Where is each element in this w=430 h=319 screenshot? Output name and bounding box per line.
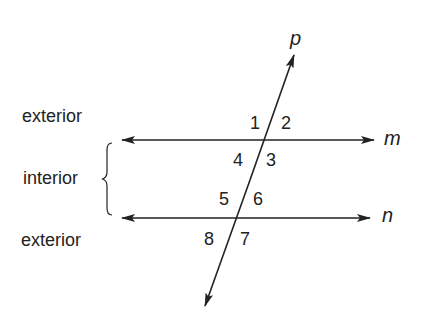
label-exterior-top: exterior [22,107,82,125]
angle-5: 5 [219,190,229,208]
angle-7: 7 [240,230,250,248]
angle-8: 8 [204,230,214,248]
angle-2: 2 [281,114,291,132]
label-interior: interior [23,169,78,187]
label-line-m: m [384,128,401,148]
diagram-canvas [0,0,430,319]
interior-brace [102,143,112,215]
angle-4: 4 [233,151,243,169]
angle-3: 3 [266,151,276,169]
label-line-p: p [290,28,301,48]
label-exterior-bottom: exterior [21,231,81,249]
angle-1: 1 [250,114,260,132]
angle-6: 6 [253,190,263,208]
label-line-n: n [382,205,393,225]
line-p [205,55,294,306]
